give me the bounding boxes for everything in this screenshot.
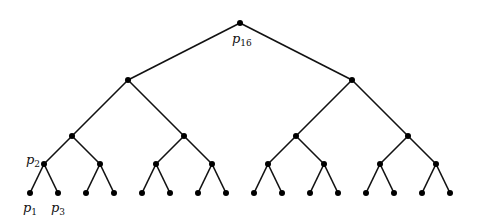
leaf-node: [223, 190, 229, 196]
leaf-node: [279, 190, 285, 196]
tree-edge: [86, 164, 100, 193]
tree-edge: [380, 164, 394, 193]
leaf-node: [195, 190, 201, 196]
label-root: p16: [232, 31, 252, 48]
tree-node: [97, 161, 103, 167]
label-p2: p2: [26, 152, 40, 169]
tree-edge: [352, 80, 408, 136]
tree-node: [69, 133, 75, 139]
binary-tree-diagram: p16 p2 p1 p3: [0, 0, 477, 219]
leaf-node: [335, 190, 341, 196]
tree-edge: [212, 164, 226, 193]
tree-edge: [296, 136, 324, 164]
leaf-node: [307, 190, 313, 196]
leaf-node: [419, 190, 425, 196]
tree-edge: [156, 136, 184, 164]
tree-edge: [198, 164, 212, 193]
tree-edge: [296, 80, 352, 136]
tree-node: [125, 77, 131, 83]
tree-node: [405, 133, 411, 139]
tree-edge: [422, 164, 436, 193]
node-labels: p16 p2 p1 p3: [23, 31, 252, 217]
tree-node: [349, 77, 355, 83]
tree-edge: [366, 164, 380, 193]
leaf-node: [111, 190, 117, 196]
tree-edge: [408, 136, 436, 164]
tree-node: [377, 161, 383, 167]
tree-edge: [254, 164, 268, 193]
tree-node: [237, 20, 243, 26]
leaf-node: [139, 190, 145, 196]
tree-edge: [268, 164, 282, 193]
tree-edge: [324, 164, 338, 193]
leaf-node: [447, 190, 453, 196]
tree-edge: [128, 23, 240, 80]
tree-node: [265, 161, 271, 167]
leaf-node: [167, 190, 173, 196]
leaf-node: [27, 190, 33, 196]
tree-node: [321, 161, 327, 167]
leaf-node: [55, 190, 61, 196]
tree-edge: [128, 80, 184, 136]
tree-edge: [380, 136, 408, 164]
tree-edges: [30, 23, 450, 193]
leaf-node: [83, 190, 89, 196]
tree-edge: [72, 136, 100, 164]
leaf-node: [391, 190, 397, 196]
tree-node: [209, 161, 215, 167]
tree-node: [153, 161, 159, 167]
tree-edge: [44, 164, 58, 193]
label-p3: p3: [51, 200, 65, 217]
tree-edge: [72, 80, 128, 136]
leaf-node: [251, 190, 257, 196]
tree-node: [41, 161, 47, 167]
tree-edge: [436, 164, 450, 193]
tree-node: [181, 133, 187, 139]
label-p1: p1: [23, 200, 37, 217]
tree-edge: [240, 23, 352, 80]
tree-node: [293, 133, 299, 139]
tree-edge: [44, 136, 72, 164]
tree-edge: [156, 164, 170, 193]
tree-edge: [142, 164, 156, 193]
tree-edge: [310, 164, 324, 193]
tree-node: [433, 161, 439, 167]
tree-edge: [184, 136, 212, 164]
tree-edge: [100, 164, 114, 193]
tree-edge: [268, 136, 296, 164]
leaf-node: [363, 190, 369, 196]
